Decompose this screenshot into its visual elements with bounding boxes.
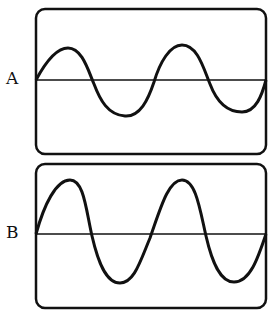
waveforms-svg xyxy=(0,0,271,317)
panel-b-wave xyxy=(36,180,266,283)
panel-a-frame xyxy=(36,9,266,154)
panel-a-label: A xyxy=(6,68,18,88)
panel-a xyxy=(36,9,266,154)
panel-b-label: B xyxy=(6,222,19,242)
panel-b xyxy=(36,164,266,308)
